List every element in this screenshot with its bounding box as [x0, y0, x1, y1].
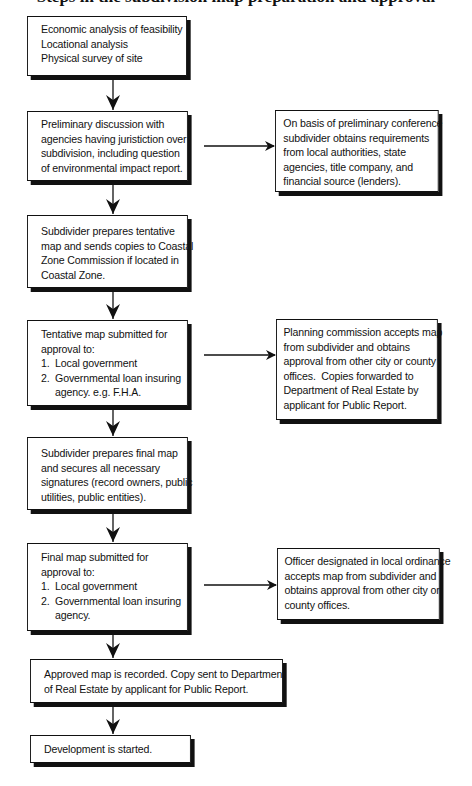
step-text: Final map submitted for approval to: 1. … — [41, 550, 187, 623]
step-development-started: Development is started. — [30, 735, 191, 763]
note-text: On basis of preliminary conference subdi… — [283, 116, 437, 189]
step-text: Approved map is recorded. Copy sent to D… — [44, 667, 282, 696]
step-final-map-prepared: Subdivider prepares final map and secure… — [27, 437, 188, 510]
step-economic-analysis: Economic analysis of feasibility Locatio… — [27, 16, 187, 76]
step-final-map-submitted: Final map submitted for approval to: 1. … — [27, 543, 188, 631]
step-text: Tentative map submitted for approval to:… — [41, 327, 187, 400]
step-tentative-map-prepared: Subdivider prepares tentative map and se… — [27, 215, 188, 288]
step-text: Economic analysis of feasibility Locatio… — [41, 22, 186, 66]
note-text: Officer designated in local ordinance ac… — [284, 554, 438, 612]
step-text: Subdivider prepares tentative map and se… — [41, 224, 187, 282]
step-preliminary-discussion: Preliminary discussion with agencies hav… — [27, 111, 188, 181]
note-planning-commission: Planning commission accepts map from sub… — [276, 319, 438, 420]
step-tentative-map-submitted: Tentative map submitted for approval to:… — [27, 320, 188, 406]
note-text: Planning commission accepts map from sub… — [283, 325, 436, 413]
note-designated-officer: Officer designated in local ordinance ac… — [277, 548, 440, 620]
step-map-recorded: Approved map is recorded. Copy sent to D… — [30, 659, 283, 703]
step-text: Preliminary discussion with agencies hav… — [41, 117, 187, 175]
note-preliminary-conference: On basis of preliminary conference subdi… — [275, 110, 439, 192]
step-text: Development is started. — [44, 742, 190, 757]
step-text: Subdivider prepares final map and secure… — [41, 446, 187, 504]
